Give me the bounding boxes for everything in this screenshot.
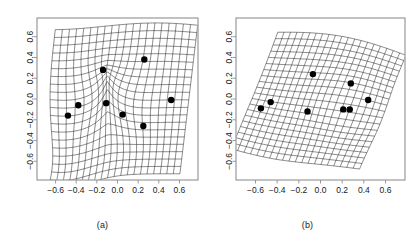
svg-text:0.4: 0.4 bbox=[358, 185, 370, 195]
svg-text:−0.4: −0.4 bbox=[25, 132, 35, 149]
grid-line-v bbox=[53, 135, 185, 148]
landmark-point bbox=[141, 56, 147, 62]
plot-frame bbox=[236, 18, 405, 180]
svg-text:−0.2: −0.2 bbox=[290, 185, 307, 195]
svg-text:−0.4: −0.4 bbox=[68, 185, 85, 195]
panel-b: −0.6−0.4−0.20.00.20.40.60.60.40.20.0−0.2… bbox=[205, 0, 410, 232]
landmark-point bbox=[258, 105, 264, 111]
svg-text:−0.6: −0.6 bbox=[47, 185, 64, 195]
grid-line-u bbox=[48, 30, 55, 188]
grid-line-v bbox=[53, 144, 184, 156]
svg-text:0.6: 0.6 bbox=[380, 185, 392, 195]
deformation-grid bbox=[231, 32, 406, 169]
landmark-point bbox=[103, 100, 109, 106]
svg-text:0.0: 0.0 bbox=[315, 185, 327, 195]
panel-a-plot: −0.6−0.4−0.20.00.20.40.60.60.40.20.0−0.2… bbox=[0, 0, 205, 232]
svg-text:0.4: 0.4 bbox=[153, 185, 165, 195]
deformation-grid-figure: −0.6−0.4−0.20.00.20.40.60.60.40.20.0−0.2… bbox=[0, 0, 411, 232]
grid-line-u bbox=[360, 55, 407, 169]
landmark-point bbox=[75, 102, 81, 108]
svg-text:−0.2: −0.2 bbox=[25, 111, 35, 128]
svg-text:0.2: 0.2 bbox=[224, 72, 234, 84]
landmark-point bbox=[365, 97, 371, 103]
landmark-point bbox=[168, 97, 174, 103]
svg-text:−0.6: −0.6 bbox=[247, 185, 264, 195]
svg-text:−0.4: −0.4 bbox=[224, 132, 234, 149]
grid-line-v bbox=[266, 64, 395, 83]
grid-line-u bbox=[140, 23, 155, 174]
grid-line-u bbox=[231, 32, 278, 149]
svg-text:0.6: 0.6 bbox=[224, 31, 234, 43]
landmark-point bbox=[310, 71, 316, 77]
svg-text:0.4: 0.4 bbox=[224, 51, 234, 63]
grid-line-v bbox=[51, 60, 193, 68]
panel-b-caption: (b) bbox=[205, 220, 410, 230]
svg-text:0.0: 0.0 bbox=[25, 93, 35, 105]
landmark-point bbox=[267, 99, 273, 105]
panel-b-plot: −0.6−0.4−0.20.00.20.40.60.60.40.20.0−0.2… bbox=[205, 0, 411, 232]
panel-a-caption: (a) bbox=[0, 220, 205, 230]
landmark-point bbox=[119, 111, 125, 117]
landmark-point bbox=[304, 108, 310, 114]
landmark-point bbox=[340, 106, 346, 112]
grid-line-u bbox=[238, 32, 285, 150]
grid-line-u bbox=[353, 53, 400, 168]
svg-text:−0.2: −0.2 bbox=[224, 111, 234, 128]
svg-text:0.0: 0.0 bbox=[224, 93, 234, 105]
grid-line-u bbox=[180, 25, 198, 174]
landmark-point bbox=[100, 67, 106, 73]
landmark-point bbox=[348, 80, 354, 86]
svg-text:0.4: 0.4 bbox=[25, 51, 35, 63]
landmark-point bbox=[140, 123, 146, 129]
grid-line-v bbox=[264, 70, 393, 88]
landmark-point bbox=[65, 112, 71, 118]
svg-text:−0.6: −0.6 bbox=[224, 153, 234, 170]
svg-text:0.2: 0.2 bbox=[25, 72, 35, 84]
svg-text:−0.6: −0.6 bbox=[25, 153, 35, 170]
svg-text:0.6: 0.6 bbox=[25, 31, 35, 43]
svg-text:0.6: 0.6 bbox=[174, 185, 186, 195]
deformation-grid bbox=[48, 23, 197, 189]
svg-text:0.2: 0.2 bbox=[132, 185, 144, 195]
svg-text:0.2: 0.2 bbox=[336, 185, 348, 195]
panel-a: −0.6−0.4−0.20.00.20.40.60.60.40.20.0−0.2… bbox=[0, 0, 205, 232]
landmark-point bbox=[347, 106, 353, 112]
svg-text:−0.4: −0.4 bbox=[269, 185, 286, 195]
grid-line-u bbox=[244, 32, 291, 152]
svg-text:0.0: 0.0 bbox=[112, 185, 124, 195]
svg-text:−0.2: −0.2 bbox=[88, 185, 105, 195]
